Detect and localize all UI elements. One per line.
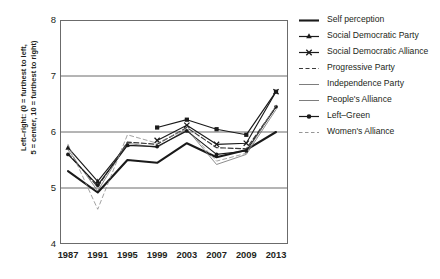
y-tick-label: 8: [34, 14, 56, 25]
data-point: [155, 125, 159, 129]
y-tick-label: 4: [34, 238, 56, 249]
dashed-legend-icon: [298, 62, 320, 75]
legend-item[interactable]: Independence Party: [298, 78, 438, 91]
series-line: [68, 105, 276, 209]
data-point: [244, 149, 248, 153]
dashed-thin-legend-icon: [298, 126, 320, 139]
legend-marker: [298, 94, 320, 107]
thin-line-legend-icon: [298, 78, 320, 91]
legend-marker: [298, 126, 320, 139]
legend-item[interactable]: Social Democratic Alliance: [298, 46, 438, 59]
legend-label: Social Democratic Party: [327, 30, 419, 41]
chart-legend: Self perceptionSocial Democratic PartySo…: [298, 14, 438, 142]
series-progressive-party: [68, 107, 276, 187]
x-tick-label: 2007: [206, 250, 227, 260]
legend-marker: [298, 78, 320, 91]
y-tick-label: 7: [34, 70, 56, 81]
legend-item[interactable]: Women's Alliance: [298, 126, 438, 139]
legend-item[interactable]: Social Democratic Party: [298, 30, 438, 43]
series-line: [68, 107, 276, 187]
y-tick-label: 6: [34, 126, 56, 137]
series-line: [68, 107, 276, 185]
legend-marker: [298, 14, 320, 27]
data-point: [65, 145, 70, 150]
legend-marker: [298, 110, 320, 123]
legend-item[interactable]: Progressive Party: [298, 62, 438, 75]
x-tick-label: 1999: [147, 250, 168, 260]
data-point: [66, 153, 70, 157]
data-point: [244, 133, 248, 137]
legend-marker: [298, 30, 320, 43]
x-tick-label: 2009: [236, 250, 257, 260]
legend-item[interactable]: Left–Green: [298, 110, 438, 123]
series-canvas: [60, 20, 288, 244]
x-tick-label: 1995: [117, 250, 138, 260]
x-tick-label: 1987: [58, 250, 79, 260]
data-point: [214, 127, 218, 131]
data-point: [155, 145, 159, 149]
legend-label: People's Alliance: [327, 94, 392, 105]
legend-marker: [298, 46, 320, 59]
series-left-green: [66, 105, 278, 187]
line-legend-icon: [298, 14, 320, 27]
x-legend-icon: [298, 46, 320, 59]
legend-label: Women's Alliance: [327, 126, 394, 137]
legend-item[interactable]: Self perception: [298, 14, 438, 27]
legend-label: Progressive Party: [327, 62, 395, 73]
chart-figure: Left–right: (0 = furthest to left, 5 = c…: [0, 0, 440, 279]
y-tick-label: 5: [34, 182, 56, 193]
legend-label: Self perception: [327, 14, 384, 25]
data-point: [215, 153, 219, 157]
series-women-s-alliance: [68, 105, 276, 209]
x-tick-label: 2013: [266, 250, 287, 260]
data-point: [126, 144, 130, 148]
y-axis-tick-labels: 87654: [32, 0, 56, 279]
x-tick-label: 2003: [177, 250, 198, 260]
legend-label: Social Democratic Alliance: [327, 46, 428, 57]
legend-item[interactable]: People's Alliance: [298, 94, 438, 107]
thin-line-legend-icon: [298, 94, 320, 107]
data-point: [185, 118, 189, 122]
plot-area: [60, 20, 288, 244]
legend-label: Left–Green: [327, 110, 370, 121]
legend-marker: [298, 62, 320, 75]
dot-legend-icon: [298, 110, 320, 123]
legend-label: Independence Party: [327, 78, 404, 89]
triangle-legend-icon: [298, 30, 320, 43]
data-point: [274, 90, 278, 94]
x-tick-label: 1991: [87, 250, 108, 260]
data-point: [96, 183, 100, 187]
